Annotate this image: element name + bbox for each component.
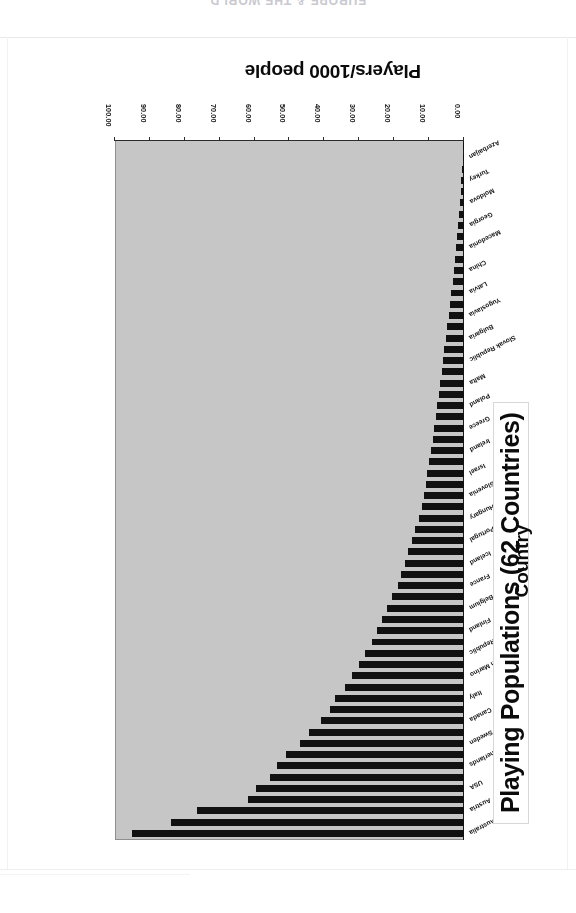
bar: [431, 447, 464, 454]
category-tick-label: Hungary: [468, 503, 495, 521]
category-tick-label: Latvia: [468, 281, 488, 296]
value-tick-label: 90.00: [139, 104, 147, 123]
bar-row: [115, 535, 464, 546]
bar: [454, 267, 464, 274]
category-tick-label: Portugal: [468, 525, 495, 543]
value-tick-mark: [219, 137, 220, 141]
bar-row: [115, 591, 464, 602]
bar: [439, 391, 464, 398]
category-axis-title: Country: [511, 501, 533, 621]
category-tick-label: Italy: [468, 689, 483, 701]
bar-row: [115, 377, 464, 388]
category-tick-label: Canada: [468, 707, 492, 724]
bar-row: [115, 186, 464, 197]
bar-row: [115, 805, 464, 816]
category-tick-label: Iceland: [468, 550, 491, 567]
bar: [434, 425, 464, 432]
value-tick-label: 20.00: [383, 104, 391, 123]
page-header-text: EUROPE & THE WORLD: [210, 0, 367, 7]
bar-row: [115, 817, 464, 828]
value-tick-mark: [149, 137, 150, 141]
bar: [446, 335, 464, 342]
bar: [415, 526, 464, 533]
bar-row: [115, 332, 464, 343]
bar-row: [115, 546, 464, 557]
bar-row: [115, 141, 464, 152]
bar: [463, 143, 464, 150]
page-header-strip: EUROPE & THE WORLD: [0, 0, 576, 13]
value-tick-label: 80.00: [174, 104, 182, 123]
category-tick-label: Bulgaria: [468, 323, 495, 341]
bar-row: [115, 310, 464, 321]
value-tick-mark: [289, 137, 290, 141]
bar-row: [115, 614, 464, 625]
category-tick-label: Moldova: [468, 188, 495, 206]
bar-row: [115, 558, 464, 569]
bar-row: [115, 299, 464, 310]
bar: [451, 290, 464, 297]
bar-row: [115, 648, 464, 659]
bar: [453, 278, 464, 285]
category-tick-label: Macedonia: [468, 229, 502, 251]
category-tick-label: Malta: [468, 372, 486, 386]
bar-row: [115, 580, 464, 591]
bar-row: [115, 681, 464, 692]
bar-row: [115, 569, 464, 580]
bar-row: [115, 749, 464, 760]
bar: [449, 312, 464, 319]
bar: [440, 380, 464, 387]
bar-row: [115, 254, 464, 265]
bar-row: [115, 501, 464, 512]
category-tick-label: Austria: [468, 797, 491, 814]
value-tick-label: 30.00: [348, 104, 356, 123]
bar: [462, 166, 464, 173]
bar: [419, 515, 464, 522]
category-tick-label: Poland: [468, 392, 491, 408]
bar: [392, 594, 464, 601]
value-tick-label: 100.00: [104, 104, 112, 127]
value-tick-label: 50.00: [279, 104, 287, 123]
bar: [408, 548, 464, 555]
bar: [132, 830, 464, 837]
bar: [372, 639, 464, 646]
bar: [377, 627, 464, 634]
bar: [429, 458, 464, 465]
value-tick-label: 70.00: [209, 104, 217, 123]
bar-row: [115, 771, 464, 782]
bar-row: [115, 422, 464, 433]
bar: [457, 233, 464, 240]
bar-row: [115, 524, 464, 535]
bar: [442, 368, 464, 375]
bar: [300, 740, 464, 747]
bar: [359, 661, 464, 668]
bar: [444, 346, 464, 353]
bar: [405, 560, 464, 567]
bar-row: [115, 456, 464, 467]
bar: [286, 751, 464, 758]
scan-edge-top: [0, 37, 576, 38]
bar: [270, 774, 464, 781]
category-tick-label: USA: [468, 779, 484, 792]
bar-row: [115, 636, 464, 647]
value-tick-mark: [393, 137, 394, 141]
bar-row: [115, 783, 464, 794]
bar-row: [115, 209, 464, 220]
bar: [455, 256, 464, 263]
bar: [352, 672, 464, 679]
value-tick-label: 40.00: [313, 104, 321, 123]
bar-row: [115, 411, 464, 422]
bar: [447, 323, 464, 330]
bar-row: [115, 276, 464, 287]
bar-row: [115, 828, 464, 839]
category-tick-label: Belgium: [468, 593, 494, 611]
category-tick-label: China: [468, 259, 488, 274]
bar-row: [115, 366, 464, 377]
value-tick-label: 60.00: [244, 104, 252, 123]
bar-row: [115, 659, 464, 670]
bar: [433, 436, 464, 443]
bar: [398, 582, 464, 589]
bar: [461, 188, 464, 195]
bar: [412, 537, 464, 544]
value-axis-title: Players/1000 people: [245, 60, 421, 82]
bar: [437, 402, 464, 409]
